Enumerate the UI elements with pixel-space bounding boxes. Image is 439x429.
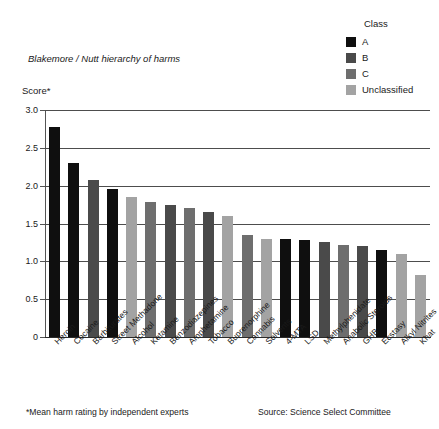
legend-swatch-a (346, 37, 356, 47)
bar (88, 180, 99, 337)
legend-item-b: B (346, 50, 438, 65)
legend-label-unclassified: Unclassified (362, 84, 413, 95)
y-axis-tick-label-wrap: 2.5 (10, 144, 38, 153)
y-axis-tick-label: 2.0 (25, 182, 38, 191)
y-axis-title: Score* (22, 85, 51, 96)
bar (49, 127, 60, 337)
legend-label-c: C (362, 68, 369, 79)
y-axis-tick-label: 1.5 (25, 220, 38, 229)
footnote-source: Source: Science Select Committee (258, 407, 391, 417)
y-axis-tick-label-wrap: 2.0 (10, 182, 38, 191)
x-axis-labels: HeroinCocaineBarbituratesStreet Methadon… (45, 338, 431, 404)
plot-area (45, 110, 430, 337)
chart-title: Blakemore / Nutt hierarchy of harms (28, 53, 180, 64)
legend-title: Class (364, 18, 438, 29)
bar (68, 163, 79, 337)
legend: Class A B C Unclassified (346, 18, 438, 98)
y-axis-tick-label-wrap: 0.5 (10, 295, 38, 304)
legend-swatch-unclassified (346, 85, 356, 95)
y-axis-tick-label: 3.0 (25, 106, 38, 115)
legend-label-b: B (362, 52, 368, 63)
bar-series (45, 110, 430, 337)
legend-swatch-c (346, 69, 356, 79)
y-axis-tick-label-wrap: 1.0 (10, 257, 38, 266)
legend-item-unclassified: Unclassified (346, 82, 438, 97)
y-axis-tick-label-wrap: 1.5 (10, 220, 38, 229)
legend-label-a: A (362, 36, 368, 47)
legend-item-c: C (346, 66, 438, 81)
legend-swatch-b (346, 53, 356, 63)
y-axis-tick-label: 0.5 (25, 295, 38, 304)
legend-item-a: A (346, 34, 438, 49)
bar (145, 202, 156, 337)
bar (319, 242, 330, 337)
footnote-left: *Mean harm rating by independent experts (26, 407, 188, 417)
y-axis-tick-label-wrap: 0 (10, 333, 38, 342)
y-axis-tick-label: 0 (33, 333, 38, 342)
y-axis-tick-label: 1.0 (25, 257, 38, 266)
y-axis-tick-label-wrap: 3.0 (10, 106, 38, 115)
y-axis-tick-label: 2.5 (25, 144, 38, 153)
